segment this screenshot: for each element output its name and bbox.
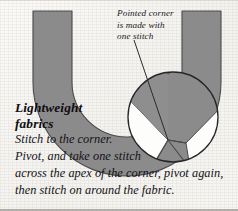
section-heading: Lightweight fabrics xyxy=(15,100,82,131)
callout-line-2: is made with xyxy=(117,20,174,32)
body-line: Pivot, and take one stitch xyxy=(15,150,141,162)
body-line: then stitch on around the fabric. xyxy=(15,184,175,196)
page-bottom-rule xyxy=(0,209,238,211)
callout-annotation: Pointed corner is made with one stitch xyxy=(117,8,174,43)
callout-line-3: one stitch xyxy=(117,31,174,43)
body-line: across the apex of the corner, pivot aga… xyxy=(15,167,223,179)
page-top-rule xyxy=(0,0,238,1)
figure-page: Pointed corner is made with one stitch L… xyxy=(0,0,238,211)
heading-line-1: Lightweight xyxy=(15,100,82,116)
body-line: Stitch to the corner. xyxy=(15,133,112,145)
heading-line-2: fabrics xyxy=(15,116,82,132)
callout-line-1: Pointed corner xyxy=(117,8,174,20)
